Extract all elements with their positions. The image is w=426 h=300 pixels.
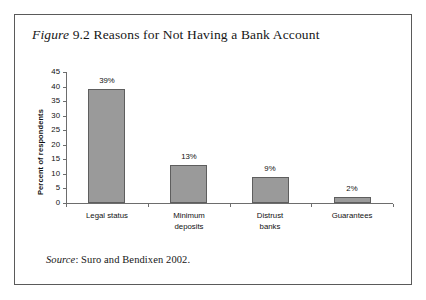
x-axis-category-label: Distrustbanks bbox=[230, 211, 310, 232]
bar-value-label: 13% bbox=[159, 153, 219, 161]
source-text: : Suro and Bendixen 2002. bbox=[75, 254, 190, 265]
y-axis-title: Percent of respondents bbox=[36, 109, 45, 195]
x-axis-tick bbox=[230, 204, 231, 207]
y-axis-tick bbox=[63, 188, 66, 189]
y-axis-tick-label: 5 bbox=[56, 184, 60, 192]
bar-chart-plot: 051015202530354045Percent of respondents… bbox=[15, 15, 413, 286]
bar bbox=[334, 197, 371, 203]
figure-container: Figure 9.2 Reasons for Not Having a Bank… bbox=[14, 14, 412, 285]
y-axis-tick-label: 35 bbox=[51, 97, 60, 105]
y-axis-tick-label: 15 bbox=[51, 155, 60, 163]
y-axis-tick-label: 20 bbox=[51, 141, 60, 149]
y-axis-tick bbox=[63, 159, 66, 160]
bar bbox=[170, 165, 207, 203]
y-axis-tick-label: 40 bbox=[51, 83, 60, 91]
y-axis-tick-label: 10 bbox=[51, 170, 60, 178]
x-axis-tick bbox=[66, 204, 67, 207]
source-label: Source bbox=[46, 254, 75, 265]
y-axis-tick bbox=[63, 174, 66, 175]
y-axis-tick bbox=[63, 145, 66, 146]
y-axis-tick-label: 0 bbox=[56, 199, 60, 207]
x-axis-tick bbox=[393, 204, 394, 207]
bar bbox=[252, 177, 289, 203]
y-axis-tick bbox=[63, 72, 66, 73]
y-axis-tick bbox=[63, 87, 66, 88]
y-axis-tick bbox=[63, 130, 66, 131]
y-axis-tick bbox=[63, 116, 66, 117]
source-note: Source: Suro and Bendixen 2002. bbox=[46, 254, 190, 265]
y-axis-tick-label: 25 bbox=[51, 126, 60, 134]
x-axis-tick bbox=[311, 204, 312, 207]
x-axis-category-label: Minimumdeposits bbox=[149, 211, 229, 232]
bar-value-label: 39% bbox=[77, 77, 137, 85]
bar-value-label: 2% bbox=[322, 185, 382, 193]
y-axis-tick-label: 30 bbox=[51, 112, 60, 120]
x-axis-category-label: Legal status bbox=[67, 211, 147, 222]
y-axis-line bbox=[66, 72, 67, 204]
y-axis-tick bbox=[63, 101, 66, 102]
bar bbox=[88, 89, 125, 203]
y-axis-tick-label: 45 bbox=[51, 68, 60, 76]
x-axis-tick bbox=[148, 204, 149, 207]
bar-value-label: 9% bbox=[240, 165, 300, 173]
x-axis-category-label: Guarantees bbox=[312, 211, 392, 222]
